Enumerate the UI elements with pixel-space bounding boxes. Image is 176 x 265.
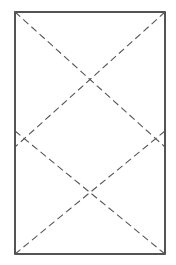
fold-pattern-diagram: [0, 0, 176, 265]
outer-rectangle: [15, 12, 165, 254]
